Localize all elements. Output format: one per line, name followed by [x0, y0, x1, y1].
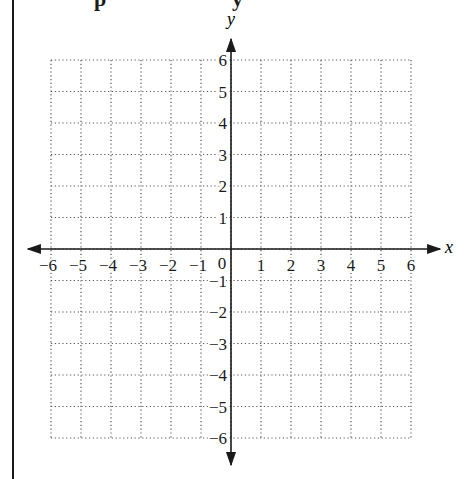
y-tick-label: 5: [219, 83, 228, 102]
y-tick-label: −4: [209, 366, 228, 385]
y-tick-label: 1: [219, 209, 228, 228]
cut-off-title-fragment: y: [232, 0, 243, 12]
x-tick-label: 4: [347, 256, 356, 275]
x-tick-label: −2: [159, 256, 177, 275]
axes: [28, 39, 440, 465]
x-tick-label: 3: [317, 256, 326, 275]
y-tick-label: −2: [209, 303, 227, 322]
y-tick-label: 3: [219, 146, 228, 165]
x-tick-label: −1: [189, 256, 207, 275]
y-tick-label: 6: [219, 51, 228, 70]
x-tick-label: 1: [257, 256, 266, 275]
x-tick-label: −6: [39, 256, 57, 275]
x-tick-label: 2: [287, 256, 296, 275]
x-tick-label: −4: [99, 256, 118, 275]
cut-off-title-fragment: p: [94, 0, 106, 12]
y-tick-label: −1: [209, 272, 227, 291]
x-axis-label: x: [444, 237, 453, 257]
origin-label: 0: [218, 254, 227, 273]
coordinate-grid: −6−5−4−3−2−10123456−6−5−4−3−2−1123456 x …: [0, 0, 472, 479]
y-tick-label: −6: [209, 429, 227, 448]
y-tick-label: 4: [219, 114, 228, 133]
y-tick-label: 2: [219, 177, 228, 196]
y-tick-label: −3: [209, 335, 227, 354]
x-tick-label: 5: [377, 256, 386, 275]
y-axis-label: y: [225, 9, 235, 29]
x-tick-label: −5: [69, 256, 87, 275]
y-tick-label: −5: [209, 398, 227, 417]
x-tick-label: −3: [129, 256, 147, 275]
coordinate-plane-figure: p y −6−5−4−3−2−10123456−6−5−4−3−2−112345…: [0, 0, 472, 479]
x-tick-label: 6: [407, 256, 416, 275]
